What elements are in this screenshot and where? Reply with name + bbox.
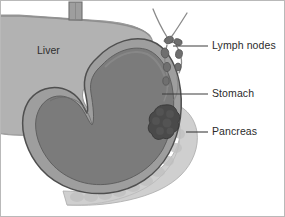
lymph-vessel-upper-right (172, 13, 187, 36)
lymph-node (175, 63, 181, 71)
callout-label-stomach: Stomach (212, 88, 254, 99)
lymph-node (175, 49, 183, 59)
anatomy-figure: Liver Lymph nodes Stomach Pancreas (0, 0, 285, 217)
lymph-node (173, 38, 183, 46)
lymph-node (163, 35, 174, 45)
anatomy-illustration (1, 1, 285, 217)
organ-label-liver: Liver (37, 45, 60, 56)
lymph-node (163, 77, 169, 85)
lymph-vessel-upper-left (153, 9, 167, 37)
callout-label-lymph-nodes: Lymph nodes (212, 40, 276, 51)
esophagus-organ (69, 2, 82, 20)
lymph-node (163, 62, 170, 71)
callout-label-pancreas: Pancreas (212, 126, 257, 137)
